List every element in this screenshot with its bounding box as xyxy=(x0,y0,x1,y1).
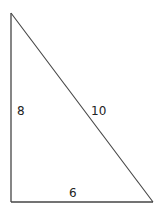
hypotenuse xyxy=(11,13,153,202)
base-label: 6 xyxy=(69,186,77,200)
vertical-side-label: 8 xyxy=(17,104,25,118)
right-triangle-diagram: 8 10 6 xyxy=(0,0,158,217)
hypotenuse-label: 10 xyxy=(91,104,106,118)
